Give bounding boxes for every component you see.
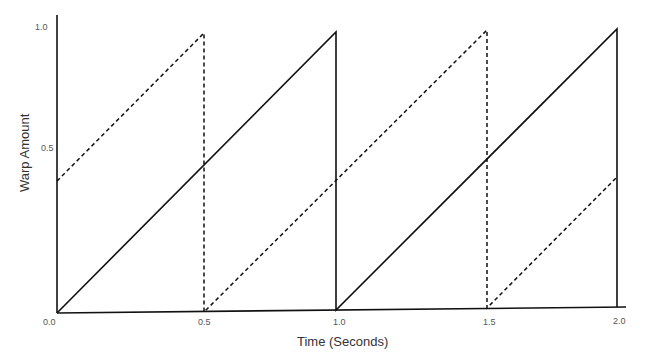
y-tick-0-5: 0.5 bbox=[41, 143, 54, 153]
x-tick-1: 1.0 bbox=[333, 317, 346, 327]
solid-series bbox=[57, 29, 617, 313]
x-tick-1-5: 1.5 bbox=[483, 317, 496, 327]
warp-chart: 1.0 0.5 0.0 0.5 1.0 1.5 2.0 Time (Second… bbox=[0, 0, 645, 360]
x-tick-0: 0.0 bbox=[43, 317, 56, 327]
y-tick-1: 1.0 bbox=[35, 22, 48, 32]
x-tick-2: 2.0 bbox=[613, 316, 626, 326]
x-axis-label: Time (Seconds) bbox=[297, 334, 388, 349]
x-tick-0-5: 0.5 bbox=[198, 317, 211, 327]
dashed-series bbox=[57, 30, 617, 312]
y-axis-label: Warp Amount bbox=[17, 113, 32, 192]
x-axis bbox=[57, 307, 626, 313]
